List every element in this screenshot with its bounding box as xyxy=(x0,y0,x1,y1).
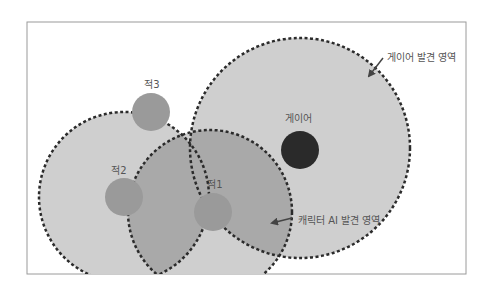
detection-area-diagram: 적1 적2 적3 게이어 게이어 발견 영역 캐릭터 AI 발견 영역 xyxy=(0,0,492,294)
enemy1-label: 적1 xyxy=(207,179,222,190)
enemy1-marker xyxy=(194,193,232,231)
player-marker xyxy=(281,131,319,169)
ai-area-callout-label: 캐릭터 AI 발견 영역 xyxy=(298,215,380,226)
player-area-callout-label: 게이어 발견 영역 xyxy=(387,52,456,63)
enemy3-label: 적3 xyxy=(144,79,159,90)
enemy3-marker xyxy=(132,93,170,131)
player-label: 게이어 xyxy=(285,113,312,124)
enemy2-label: 적2 xyxy=(111,165,126,176)
enemy2-marker xyxy=(105,178,143,216)
